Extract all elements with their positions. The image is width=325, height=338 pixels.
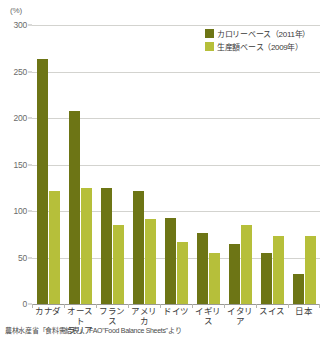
x-axis-category-label: スイス <box>256 306 288 330</box>
x-axis-category-label-line: アメリカ <box>128 307 160 326</box>
bar-group <box>96 25 128 304</box>
legend-label: カロリーベース（2011年） <box>217 28 310 39</box>
y-tick-label-150: 150 <box>13 160 27 170</box>
bar <box>229 244 240 304</box>
plot-area: 300250200150100500 <box>32 25 320 304</box>
bar <box>69 111 80 304</box>
bar-group <box>192 25 224 304</box>
bar <box>209 253 220 304</box>
x-axis-category-label-line: オースト <box>64 307 96 326</box>
y-tick-label-50: 50 <box>18 253 27 263</box>
y-tick-label-100: 100 <box>13 206 27 216</box>
chart-legend: カロリーベース（2011年）生産額ベース（2009年） <box>205 28 310 52</box>
bar-group <box>256 25 288 304</box>
x-axis-category-label-line: 日本 <box>288 307 320 317</box>
x-axis-category-label: イタリア <box>224 306 256 330</box>
legend-item: カロリーベース（2011年） <box>205 28 310 39</box>
gridline-0: 0 <box>32 304 320 305</box>
x-axis-category-label-line: スイス <box>256 307 288 317</box>
y-tick-label-0: 0 <box>22 299 27 309</box>
bar <box>145 219 156 304</box>
y-axis-unit-label: (%) <box>10 6 22 15</box>
bar-groups <box>32 25 320 304</box>
y-tick-label-200: 200 <box>13 113 27 123</box>
bar <box>197 233 208 304</box>
x-axis-category-label: イギリス <box>192 306 224 330</box>
legend-label: 生産額ベース（2009年） <box>217 41 303 52</box>
bar <box>305 236 316 304</box>
bar <box>165 218 176 304</box>
bar-group <box>64 25 96 304</box>
bar <box>177 242 188 304</box>
bar <box>81 188 92 304</box>
bar <box>49 191 60 304</box>
y-tick-label-300: 300 <box>13 20 27 30</box>
x-axis-category-label-line: フランス <box>96 307 128 326</box>
bar <box>273 236 284 304</box>
x-axis-category-label-line: ドイツ <box>160 307 192 317</box>
x-axis-category-label-line: イギリス <box>192 307 224 326</box>
food-self-sufficiency-bar-chart: (%) 300250200150100500 カナダオーストラリアフランスアメリ… <box>0 0 325 338</box>
bar <box>261 253 272 304</box>
legend-swatch <box>205 42 214 51</box>
x-axis-category-label: 日本 <box>288 306 320 330</box>
bar <box>113 225 124 304</box>
bar-group <box>288 25 320 304</box>
bar-group <box>160 25 192 304</box>
source-note: 農林水産省「食料需給表」、FAO"Food Balance Sheets"より <box>5 325 181 335</box>
bar-group <box>32 25 64 304</box>
y-tick-label-250: 250 <box>13 67 27 77</box>
bar <box>293 274 304 304</box>
bar <box>101 188 112 304</box>
bar <box>37 59 48 304</box>
legend-swatch <box>205 29 214 38</box>
legend-item: 生産額ベース（2009年） <box>205 41 310 52</box>
bar-group <box>128 25 160 304</box>
bar <box>241 225 252 304</box>
x-axis-category-label-line: カナダ <box>32 307 64 317</box>
bar <box>133 191 144 304</box>
x-axis-category-label-line: イタリア <box>224 307 256 326</box>
bar-group <box>224 25 256 304</box>
